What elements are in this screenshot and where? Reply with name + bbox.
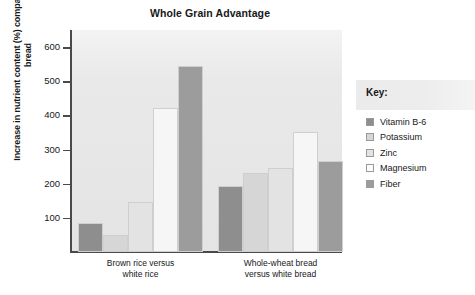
chart-title: Whole Grain Advantage bbox=[95, 7, 325, 19]
y-tick-label: 500 bbox=[26, 75, 60, 86]
y-tick-label: 400 bbox=[26, 109, 60, 120]
legend-swatch-icon bbox=[366, 180, 374, 188]
y-tick-label: 200 bbox=[26, 178, 60, 189]
legend-item: Potassium bbox=[366, 130, 474, 146]
bar bbox=[293, 132, 318, 252]
chart-figure: Whole Grain Advantage Increase in nutrie… bbox=[0, 0, 475, 295]
y-tick-mark bbox=[63, 47, 71, 49]
bar bbox=[103, 235, 128, 252]
bar bbox=[78, 223, 103, 252]
y-tick-label: 300 bbox=[26, 144, 60, 155]
x-axis-group-label: Brown rice versuswhite rice bbox=[81, 258, 201, 280]
legend-item-label: Fiber bbox=[380, 179, 401, 189]
y-tick-mark bbox=[63, 150, 71, 152]
legend-item-label: Zinc bbox=[380, 148, 397, 158]
bar bbox=[318, 161, 343, 252]
legend-item-label: Potassium bbox=[380, 132, 422, 142]
legend-swatch-icon bbox=[366, 164, 374, 172]
legend-swatch-icon bbox=[366, 149, 374, 157]
bar bbox=[243, 173, 268, 252]
legend-swatch-icon bbox=[366, 118, 374, 126]
legend-item: Vitamin B-6 bbox=[366, 114, 474, 130]
legend-item: Fiber bbox=[366, 176, 474, 192]
legend-item: Zinc bbox=[366, 145, 474, 161]
y-tick-mark bbox=[63, 184, 71, 186]
bar bbox=[218, 186, 243, 252]
y-tick-mark bbox=[63, 218, 71, 220]
legend-item-label: Vitamin B-6 bbox=[380, 117, 426, 127]
y-tick-mark bbox=[63, 81, 71, 83]
legend-title: Key: bbox=[366, 87, 388, 98]
legend-item-label: Magnesium bbox=[380, 163, 427, 173]
x-axis-group-label-line: Brown rice versus bbox=[81, 258, 201, 269]
legend-swatch-icon bbox=[366, 133, 374, 141]
legend: Key: Vitamin B-6PotassiumZincMagnesiumFi… bbox=[356, 80, 475, 192]
y-tick-label: 600 bbox=[26, 41, 60, 52]
bar bbox=[268, 168, 293, 252]
legend-items: Vitamin B-6PotassiumZincMagnesiumFiber bbox=[366, 114, 474, 192]
x-axis-group-label-line: Whole-wheat bread bbox=[221, 258, 341, 269]
bar bbox=[153, 108, 178, 252]
x-axis-group-label-line: versus white bread bbox=[221, 269, 341, 280]
y-axis-line bbox=[70, 30, 72, 253]
legend-item: Magnesium bbox=[366, 161, 474, 177]
bar bbox=[128, 202, 153, 252]
bar bbox=[178, 66, 203, 252]
y-tick-label: 100 bbox=[26, 212, 60, 223]
y-tick-mark bbox=[63, 115, 71, 117]
x-axis-group-label-line: white rice bbox=[81, 269, 201, 280]
x-axis-group-label: Whole-wheat breadversus white bread bbox=[221, 258, 341, 280]
